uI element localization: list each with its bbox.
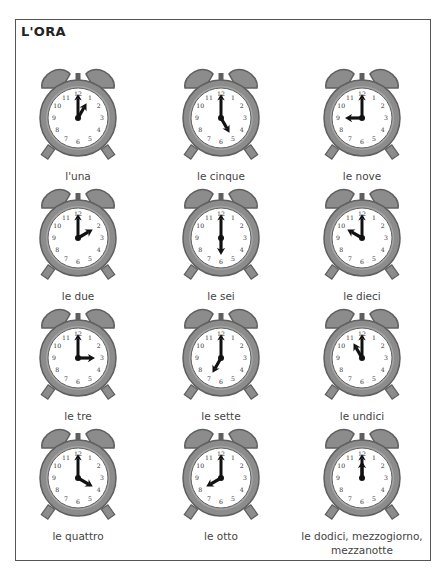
clock-numeral: 6	[219, 378, 223, 385]
clock-numeral: 10	[196, 462, 204, 469]
clock-numeral: 6	[219, 258, 223, 265]
clock-numeral: 8	[55, 486, 59, 493]
clock-numeral: 10	[196, 342, 204, 349]
clock-numeral: 5	[88, 375, 92, 382]
clock-numeral: 3	[100, 354, 104, 361]
clock-numeral: 9	[52, 474, 56, 481]
clock-numeral: 3	[384, 234, 388, 241]
clock-numeral: 10	[53, 102, 61, 109]
clock-numeral: 4	[381, 246, 385, 253]
clock-numeral: 4	[97, 246, 101, 253]
clock-numeral: 4	[240, 366, 244, 373]
clock-numeral: 6	[76, 498, 80, 505]
clock-numeral: 9	[195, 474, 199, 481]
clock-numeral: 9	[195, 354, 199, 361]
clock-numeral: 6	[76, 138, 80, 145]
clock-numeral: 3	[100, 474, 104, 481]
clock-numeral: 5	[231, 375, 235, 382]
clock-numeral: 11	[205, 334, 213, 341]
alarm-clock-icon: 121234567891011	[176, 426, 266, 526]
clock-item: 121234567891011le dodici, mezzogiorno, m…	[292, 426, 432, 557]
clock-numeral: 2	[381, 342, 385, 349]
clock-numeral: 2	[381, 222, 385, 229]
clock-item: 121234567891011le tre	[8, 306, 148, 423]
clock-numeral: 8	[198, 126, 202, 133]
clock-numeral: 2	[240, 222, 244, 229]
clock-numeral: 3	[100, 234, 104, 241]
bell-stem	[76, 433, 81, 440]
clock-numeral: 3	[243, 234, 247, 241]
clock-label: le due	[8, 289, 148, 303]
clock-numeral: 8	[339, 486, 343, 493]
clock-numeral: 6	[360, 378, 364, 385]
clock-numeral: 10	[196, 222, 204, 229]
clock-numeral: 6	[219, 498, 223, 505]
clock-numeral: 9	[336, 474, 340, 481]
clock-numeral: 11	[62, 454, 70, 461]
clock-numeral: 11	[205, 214, 213, 221]
clock-numeral: 7	[64, 375, 68, 382]
clock-pivot	[75, 475, 81, 481]
clock-pivot	[359, 115, 365, 121]
clock-pivot	[75, 115, 81, 121]
clock-numeral: 9	[336, 354, 340, 361]
clock-numeral: 2	[240, 102, 244, 109]
clock-numeral: 4	[97, 366, 101, 373]
clock-numeral: 5	[372, 255, 376, 262]
clock-numeral: 2	[240, 462, 244, 469]
clock-numeral: 10	[53, 222, 61, 229]
clock-numeral: 8	[55, 246, 59, 253]
clock-item: 121234567891011le sette	[151, 306, 291, 423]
clock-numeral: 11	[62, 334, 70, 341]
clock-numeral: 5	[372, 135, 376, 142]
clock-numeral: 9	[52, 354, 56, 361]
clock-item: 121234567891011l'una	[8, 66, 148, 183]
clock-numeral: 7	[64, 135, 68, 142]
bell-stem	[76, 313, 81, 320]
clock-numeral: 10	[337, 102, 345, 109]
alarm-clock-icon: 121234567891011	[33, 306, 123, 406]
clock-numeral: 4	[381, 126, 385, 133]
bell-stem	[360, 433, 365, 440]
clock-numeral: 3	[384, 474, 388, 481]
clock-numeral: 8	[198, 246, 202, 253]
clock-numeral: 11	[62, 94, 70, 101]
bell-stem	[219, 313, 224, 320]
clock-numeral: 6	[360, 258, 364, 265]
clock-numeral: 1	[88, 334, 92, 341]
clock-numeral: 2	[240, 342, 244, 349]
clock-numeral: 11	[346, 94, 354, 101]
clock-label: le sette	[151, 409, 291, 423]
clock-item: 121234567891011le nove	[292, 66, 432, 183]
clock-numeral: 6	[76, 378, 80, 385]
clock-label: le tre	[8, 409, 148, 423]
alarm-clock-icon: 121234567891011	[33, 66, 123, 166]
clock-pivot	[75, 355, 81, 361]
clock-numeral: 5	[231, 255, 235, 262]
clock-pivot	[359, 235, 365, 241]
bell-stem	[219, 433, 224, 440]
clock-numeral: 8	[339, 366, 343, 373]
clock-numeral: 10	[53, 462, 61, 469]
clock-numeral: 11	[62, 214, 70, 221]
clock-numeral: 1	[231, 214, 235, 221]
clock-numeral: 2	[97, 462, 101, 469]
clock-numeral: 9	[336, 114, 340, 121]
clock-numeral: 1	[372, 334, 376, 341]
clock-numeral: 1	[372, 94, 376, 101]
clock-numeral: 7	[207, 255, 211, 262]
clock-numeral: 4	[240, 126, 244, 133]
clock-pivot	[359, 475, 365, 481]
clock-item: 121234567891011le due	[8, 186, 148, 303]
clock-numeral: 11	[205, 94, 213, 101]
clock-numeral: 7	[207, 495, 211, 502]
clock-numeral: 8	[55, 366, 59, 373]
clock-numeral: 1	[231, 334, 235, 341]
clock-numeral: 7	[64, 255, 68, 262]
clock-numeral: 5	[88, 135, 92, 142]
clock-numeral: 4	[240, 486, 244, 493]
clock-item: 121234567891011le quattro	[8, 426, 148, 543]
clock-label: l'una	[8, 169, 148, 183]
clock-numeral: 5	[231, 135, 235, 142]
clock-numeral: 1	[88, 454, 92, 461]
